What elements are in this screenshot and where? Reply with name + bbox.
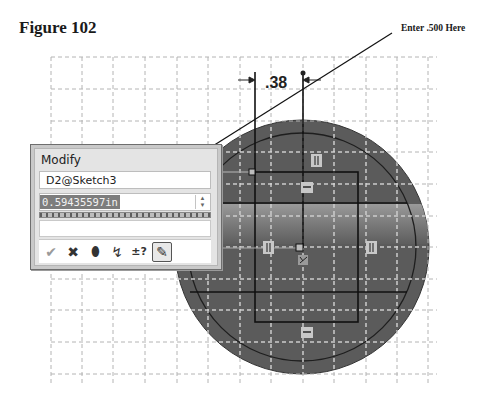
dialog-button-row: ✔ ✖ ⬮ ↯ ±? ✎ <box>39 239 211 263</box>
dimension-label: .38 <box>265 74 287 91</box>
dialog-blank-area <box>39 220 211 237</box>
check-icon: ✔ <box>45 244 57 260</box>
modify-dialog[interactable]: Modify D2@Sketch3 0.59435597in ▲ ▼ ✔ ✖ ⬮… <box>30 144 222 270</box>
reverse-dimension-button[interactable]: ↯ <box>108 243 126 261</box>
x-icon: ✖ <box>67 244 79 260</box>
traffic-light-icon: ⬮ <box>91 243 100 260</box>
dialog-body: Modify D2@Sketch3 0.59435597in ▲ ▼ ✔ ✖ ⬮… <box>34 148 218 266</box>
dialog-title: Modify <box>41 153 81 167</box>
dimension-value-input[interactable]: 0.59435597in ▲ ▼ <box>39 193 211 211</box>
spin-down-icon[interactable]: ▼ <box>196 202 209 209</box>
ok-button[interactable]: ✔ <box>42 243 60 261</box>
spin-up-icon[interactable]: ▲ <box>196 195 209 202</box>
pencil-icon: ✎ <box>156 244 168 260</box>
sketch-point <box>249 169 255 175</box>
spin-buttons[interactable]: ▲ ▼ <box>195 195 209 209</box>
reverse-arrow-icon: ↯ <box>111 244 123 260</box>
mark-dimension-button[interactable]: ±? <box>130 243 148 261</box>
thumbwheel-slider[interactable] <box>39 212 211 218</box>
origin-point <box>296 244 303 251</box>
drive-dimension-button[interactable]: ✎ <box>152 242 172 262</box>
plus-minus-question-icon: ±? <box>131 245 147 258</box>
dimension-value-text[interactable]: 0.59435597in <box>40 195 120 209</box>
cancel-button[interactable]: ✖ <box>64 243 82 261</box>
rebuild-button[interactable]: ⬮ <box>86 243 104 261</box>
dimension-name-field: D2@Sketch3 <box>39 171 211 189</box>
